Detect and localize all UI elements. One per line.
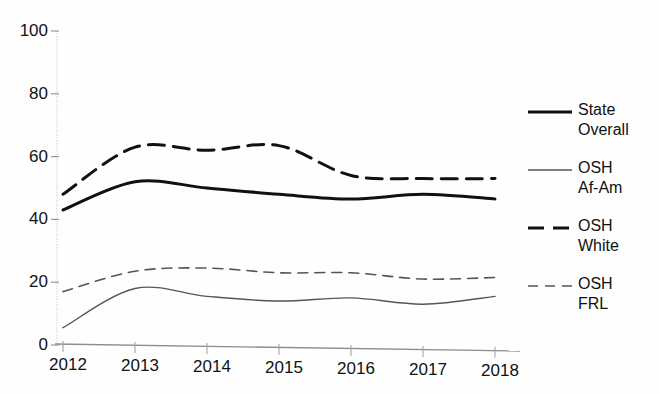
x-tick-label: 2015	[254, 358, 314, 378]
legend-label: OSH Af-Am	[572, 158, 622, 198]
series-line-osh-frl	[63, 268, 495, 292]
x-tick-label: 2018	[470, 361, 530, 381]
y-tick-label: 60	[8, 147, 48, 167]
series-group	[63, 144, 495, 327]
legend-swatch-osh-white	[528, 218, 572, 238]
y-tick-label: 100	[8, 21, 48, 41]
y-tick-label: 0	[8, 335, 48, 355]
chart-legend: State OverallOSH Af-AmOSH WhiteOSH FRL	[528, 100, 654, 332]
x-tick-label: 2012	[38, 355, 98, 375]
y-tick-label: 40	[8, 209, 48, 229]
x-axis-line	[55, 344, 520, 351]
x-tick-label: 2013	[110, 356, 170, 376]
legend-label: OSH White	[572, 216, 619, 256]
legend-label: OSH FRL	[572, 274, 613, 314]
legend-entry: OSH Af-Am	[528, 158, 654, 202]
x-tick-label: 2014	[182, 357, 242, 377]
legend-swatch-state-overall	[528, 102, 572, 122]
y-tick-label: 20	[8, 272, 48, 292]
legend-swatch-osh-af-am	[528, 160, 572, 180]
legend-label: State Overall	[572, 100, 629, 140]
series-line-state-overall	[63, 181, 495, 210]
x-tick-label: 2016	[326, 359, 386, 379]
line-chart-figure: 020406080100 201220132014201520162017201…	[0, 0, 659, 394]
series-line-osh-white	[63, 144, 495, 194]
legend-entry: OSH FRL	[528, 274, 654, 318]
series-line-osh-af-am	[63, 287, 495, 328]
legend-entry: OSH White	[528, 216, 654, 260]
legend-swatch-osh-frl	[528, 276, 572, 296]
legend-entry: State Overall	[528, 100, 654, 144]
x-tick-label: 2017	[398, 360, 458, 380]
y-tick-label: 80	[8, 84, 48, 104]
